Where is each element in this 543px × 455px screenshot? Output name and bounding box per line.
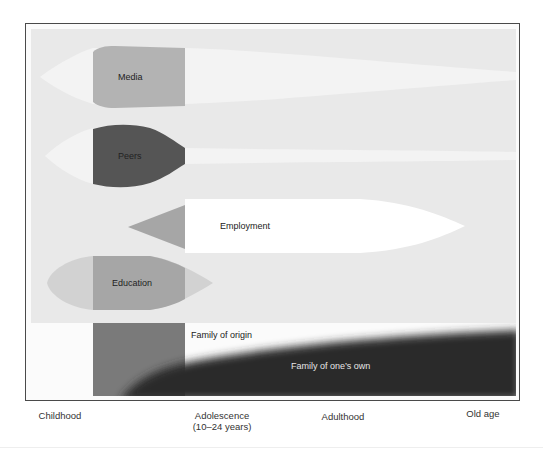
axis-stage-childhood: Childhood xyxy=(30,410,90,421)
stage-label: Old age xyxy=(466,408,499,419)
axis-stage-adolescence: Adolescence (10–24 years) xyxy=(182,410,262,432)
stage-label: Childhood xyxy=(39,410,82,421)
stage-label: Adulthood xyxy=(322,411,365,422)
peers-label: Peers xyxy=(118,151,142,161)
stage-sublabel: (10–24 years) xyxy=(193,421,252,432)
axis-stage-old-age: Old age xyxy=(458,408,508,419)
life-course-diagram xyxy=(0,0,543,455)
axis-stage-adulthood: Adulthood xyxy=(313,411,373,422)
family-of-origin-label: Family of origin xyxy=(191,330,252,340)
education-label: Education xyxy=(112,278,152,288)
stage-label: Adolescence xyxy=(195,410,249,421)
family-of-own-label: Family of one’s own xyxy=(291,361,370,371)
employment-label: Employment xyxy=(220,221,270,231)
family-section xyxy=(31,323,520,400)
bottom-divider xyxy=(0,447,543,448)
media-label: Media xyxy=(118,72,143,82)
